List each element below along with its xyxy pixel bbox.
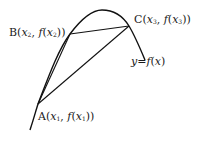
point-c-label: C(x3, f(x3)): [134, 14, 191, 25]
curve-equation-label: y=f(x): [131, 56, 165, 67]
segment-bc: [70, 26, 129, 34]
point-b-label: B(x2, f(x2)): [9, 27, 65, 38]
segment-ab: [38, 34, 70, 104]
point-a-label: A(x1, f(x1)): [38, 111, 94, 122]
